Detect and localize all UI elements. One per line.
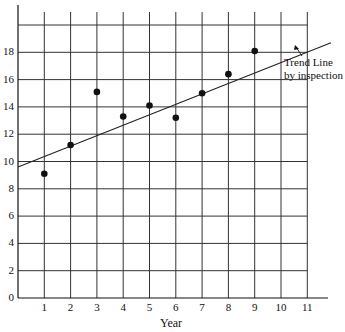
y-tick-label: 2 bbox=[0, 265, 14, 276]
x-axis-label: Year bbox=[160, 317, 182, 329]
data-point bbox=[199, 90, 206, 97]
x-tick-label: 5 bbox=[140, 302, 160, 313]
trend-line-label-2: by inspection bbox=[284, 70, 343, 81]
x-tick-label: 9 bbox=[245, 302, 265, 313]
trend-line-label-1: Trend Line bbox=[284, 57, 333, 68]
y-tick-label: 4 bbox=[0, 237, 14, 248]
x-tick-label: 10 bbox=[271, 302, 291, 313]
scatter-chart bbox=[0, 0, 345, 332]
x-tick-label: 11 bbox=[297, 302, 317, 313]
data-point bbox=[251, 48, 258, 55]
x-tick-label: 6 bbox=[166, 302, 186, 313]
data-point bbox=[225, 71, 232, 78]
x-tick-label: 2 bbox=[61, 302, 81, 313]
x-tick-label: 8 bbox=[218, 302, 238, 313]
data-point bbox=[94, 89, 101, 96]
y-tick-label: 14 bbox=[0, 101, 14, 112]
data-point bbox=[120, 113, 127, 120]
y-tick-label: 0 bbox=[0, 292, 14, 303]
y-tick-label: 16 bbox=[0, 74, 14, 85]
data-point bbox=[41, 170, 48, 177]
x-tick-label: 4 bbox=[113, 302, 133, 313]
x-tick-label: 1 bbox=[34, 302, 54, 313]
x-tick-label: 3 bbox=[87, 302, 107, 313]
y-tick-label: 12 bbox=[0, 128, 14, 139]
y-tick-label: 10 bbox=[0, 156, 14, 167]
x-tick-label: 7 bbox=[192, 302, 212, 313]
data-point bbox=[173, 115, 180, 122]
grid-lines bbox=[18, 12, 307, 298]
data-point bbox=[146, 102, 153, 109]
y-tick-label: 18 bbox=[0, 46, 14, 57]
data-point bbox=[67, 142, 74, 149]
y-tick-label: 6 bbox=[0, 210, 14, 221]
y-tick-label: 8 bbox=[0, 183, 14, 194]
